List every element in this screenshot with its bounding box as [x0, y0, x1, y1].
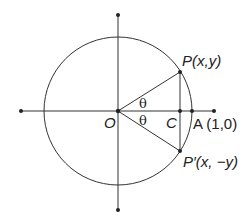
y-axis-top-end-dot	[116, 13, 120, 17]
x-axis-right-end-dot	[212, 109, 216, 113]
label-angle-lower: θ	[139, 113, 147, 128]
point-a-dot	[190, 109, 194, 113]
label-p: P(x,y)	[182, 52, 221, 69]
x-axis-left-end-dot	[19, 109, 23, 113]
y-axis-bottom-end-dot	[116, 208, 120, 212]
point-p-dot	[178, 70, 182, 74]
label-angle-upper: θ	[139, 96, 147, 111]
label-origin: O	[104, 114, 116, 131]
label-c: C	[166, 114, 177, 131]
point-p-prime-dot	[178, 149, 182, 153]
radius-op	[118, 72, 180, 111]
unit-circle-diagram: O C A (1,0) P(x,y) P′(x, −y) θ θ	[0, 0, 245, 217]
point-o-dot	[116, 109, 120, 113]
label-a: A (1,0)	[193, 115, 237, 132]
label-p-prime: P′(x, −y)	[183, 153, 238, 170]
point-c-dot	[178, 109, 182, 113]
